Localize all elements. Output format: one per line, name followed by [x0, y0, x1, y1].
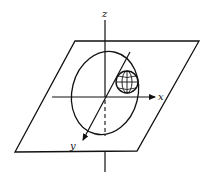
coordinate-diagram: z x y: [0, 0, 210, 180]
z-axis-label: z: [101, 8, 108, 19]
y-axis: [83, 52, 130, 140]
x-axis-label: x: [158, 91, 164, 102]
sphere: [116, 71, 138, 93]
y-axis-label: y: [69, 140, 76, 151]
